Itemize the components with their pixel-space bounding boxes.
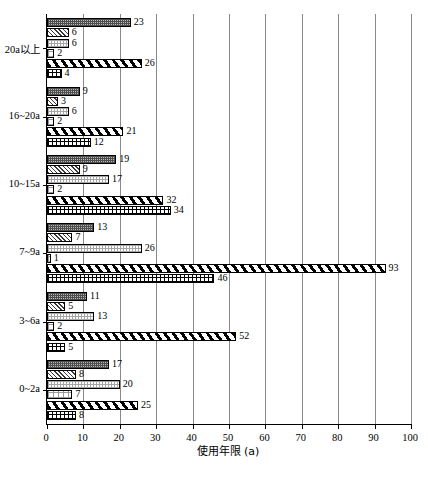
bar [47,59,142,68]
bar [47,380,120,389]
bar-value-label: 52 [239,331,249,340]
bar [47,69,62,78]
x-axis-tick [265,424,266,429]
bar-value-label: 19 [119,154,129,163]
gridline [156,14,157,424]
y-axis-category-label: 10~15a [0,178,40,189]
x-axis-tick-label: 60 [259,432,270,443]
x-axis-tick-label: 90 [368,432,379,443]
bar [47,360,109,369]
bar [47,206,171,215]
bar-value-label: 23 [134,17,144,26]
bar-value-label: 21 [126,126,136,135]
bar [47,18,131,27]
bar-value-label: 6 [72,106,77,115]
bar-value-label: 9 [83,86,88,95]
bar-value-label: 17 [112,174,122,183]
bar-value-label: 2 [57,48,62,57]
bar-value-label: 8 [79,369,84,378]
bar-value-label: 5 [68,342,73,351]
bar [47,196,163,205]
bar-value-label: 11 [90,291,100,300]
bar [47,401,138,410]
bar [47,127,123,136]
x-axis-tick [229,424,230,429]
bar-chart: 2366226493622112199172323413726193461151… [0,0,428,478]
bar-value-label: 5 [68,301,73,310]
bar [47,264,386,273]
x-axis-tick-label: 20 [114,432,125,443]
x-axis-tick-label: 10 [77,432,88,443]
bar-value-label: 26 [145,58,155,67]
bar [47,49,54,58]
bar-value-label: 17 [112,359,122,368]
bar [47,28,69,37]
bar-value-label: 2 [57,321,62,330]
gridline [375,14,376,424]
y-axis-category-label: 0~2a [0,383,40,394]
x-axis-tick-label: 0 [43,432,48,443]
gridline [193,14,194,424]
bar [47,274,214,283]
bar [47,312,94,321]
x-axis-tick-label: 80 [332,432,343,443]
x-axis-tick-label: 100 [402,432,418,443]
bar-value-label: 46 [217,273,227,282]
bar [47,97,58,106]
bar-value-label: 3 [61,96,66,105]
bar-value-label: 32 [166,195,176,204]
x-axis-tick [302,424,303,429]
gridline [265,14,266,424]
bar [47,233,72,242]
bar [47,155,116,164]
gridline [338,14,339,424]
y-axis-category-label: 16~20a [0,110,40,121]
bar-value-label: 8 [79,410,84,419]
bar [47,165,80,174]
bar-value-label: 2 [57,116,62,125]
bar-value-label: 25 [141,400,151,409]
bar-value-label: 6 [72,27,77,36]
y-axis-category-label: 20a以上 [0,41,40,56]
x-axis-tick [47,424,48,429]
bar [47,411,76,420]
bar [47,332,236,341]
x-axis-tick [83,424,84,429]
bar [47,223,94,232]
gridline [411,14,412,424]
bar-value-label: 93 [389,263,399,272]
bar [47,254,51,263]
x-axis-tick-label: 70 [296,432,307,443]
x-axis-tick [375,424,376,429]
plot-area: 2366226493622112199172323413726193461151… [46,14,411,425]
x-axis-tick [120,424,121,429]
gridline [302,14,303,424]
x-axis-tick [411,424,412,429]
bar-value-label: 26 [145,243,155,252]
x-axis-tick-label: 40 [186,432,197,443]
bar [47,292,87,301]
bar-value-label: 13 [97,311,107,320]
bar [47,185,54,194]
x-axis-tick-label: 50 [223,432,234,443]
bar [47,370,76,379]
bar-value-label: 7 [75,232,80,241]
gridline [229,14,230,424]
bar [47,390,72,399]
x-axis-tick [193,424,194,429]
bar-value-label: 7 [75,389,80,398]
bar [47,244,142,253]
bar [47,302,65,311]
bar-value-label: 6 [72,38,77,47]
bar [47,117,54,126]
bar-value-label: 2 [57,184,62,193]
bar-value-label: 13 [97,222,107,231]
bar-value-label: 34 [174,205,184,214]
x-axis-tick [156,424,157,429]
y-axis-category-label: 3~6a [0,315,40,326]
bar-value-label: 20 [123,379,133,388]
y-axis-category-label: 7~9a [0,246,40,257]
bar-value-label: 4 [65,68,70,77]
x-axis-tick-label: 30 [150,432,161,443]
x-axis-tick [338,424,339,429]
